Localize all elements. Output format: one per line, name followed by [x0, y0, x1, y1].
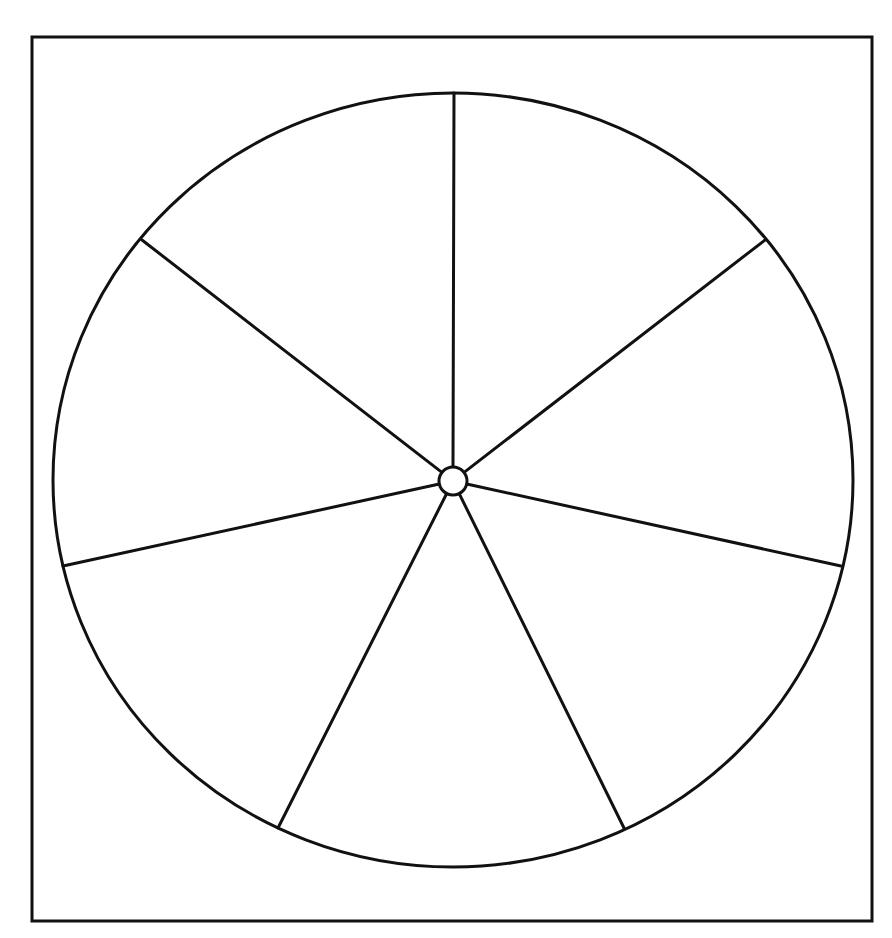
spoke-top	[453, 93, 454, 467]
center-hub	[439, 467, 467, 495]
wheel-diagram	[0, 0, 892, 938]
